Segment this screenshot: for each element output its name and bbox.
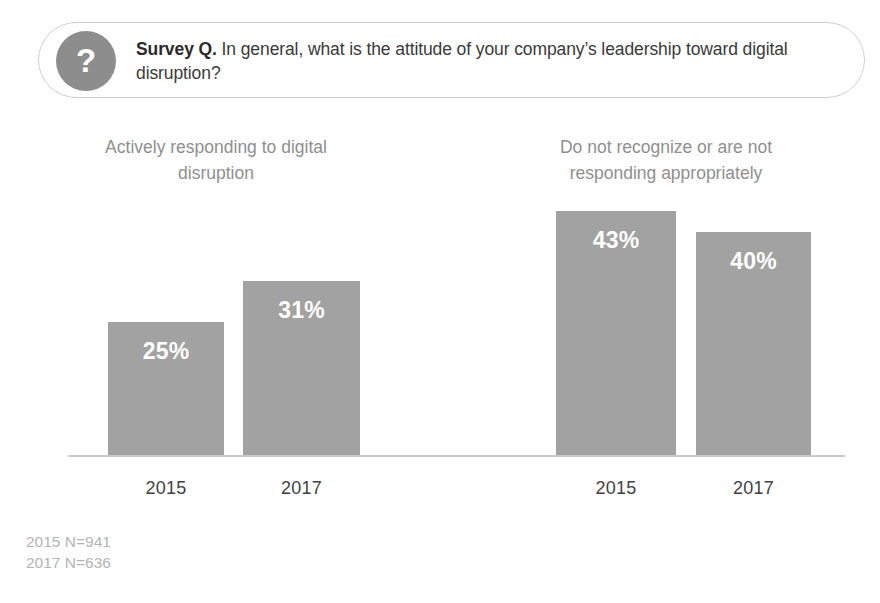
bar-chart: Actively responding to digital disruptio… — [0, 0, 880, 603]
footnote-line-2017: 2017 N=636 — [26, 552, 111, 573]
bar-actively-2015[interactable]: 25% — [108, 322, 224, 455]
tick-label-notrecognize-2015: 2015 — [556, 478, 676, 499]
bar-actively-2017[interactable]: 31% — [243, 281, 360, 455]
bar-value-actively-2017: 31% — [243, 297, 360, 324]
group-label-actively-responding: Actively responding to digital disruptio… — [98, 134, 334, 186]
bar-value-notrecognize-2015: 43% — [556, 227, 676, 254]
chart-page: ? Survey Q. In general, what is the atti… — [0, 0, 880, 603]
bar-notrecognize-2017[interactable]: 40% — [696, 232, 811, 455]
tick-label-actively-2017: 2017 — [243, 478, 360, 499]
tick-label-actively-2015: 2015 — [108, 478, 224, 499]
footnote-line-2015: 2015 N=941 — [26, 531, 111, 552]
sample-size-footnote: 2015 N=941 2017 N=636 — [26, 531, 111, 573]
bar-notrecognize-2015[interactable]: 43% — [556, 211, 676, 455]
tick-label-notrecognize-2017: 2017 — [696, 478, 811, 499]
group-label-not-recognizing: Do not recognize or are not responding a… — [518, 134, 814, 186]
bar-value-notrecognize-2017: 40% — [696, 248, 811, 275]
baseline-axis — [68, 455, 845, 457]
bar-value-actively-2015: 25% — [108, 338, 224, 365]
